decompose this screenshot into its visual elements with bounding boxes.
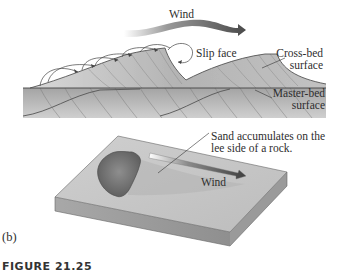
sand-annotation-line2: lee side of a rock. [211, 142, 325, 154]
figure-number: FIGURE 21.25 [2, 260, 92, 273]
wind-label-top: Wind [169, 8, 194, 20]
panel-label-b: (b) [2, 231, 17, 243]
sand-annotation-line1: Sand accumulates on the [211, 130, 325, 142]
cross-bed-label-line1: Cross-bed [268, 47, 323, 59]
sand-annotation: Sand accumulates on the lee side of a ro… [211, 130, 325, 154]
slip-face-label: Slip face [196, 47, 237, 59]
master-bed-label-line2: surface [262, 99, 325, 111]
master-bed-label-line1: Master-bed [262, 87, 325, 99]
figure-caption: FIGURE 21.25 [2, 260, 92, 273]
cross-bed-label-line2: surface [268, 59, 323, 71]
master-bed-label: Master-bed surface [262, 87, 325, 111]
wind-label-block: Wind [201, 176, 226, 188]
cross-bed-label: Cross-bed surface [268, 47, 323, 71]
wind-arrow-top [124, 20, 246, 37]
